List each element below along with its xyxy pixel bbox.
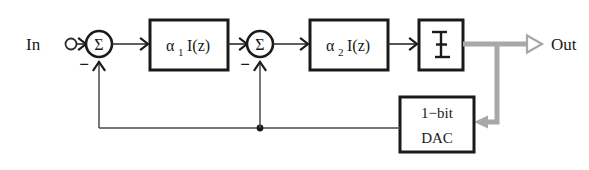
dac-label-line2: DAC <box>421 130 453 146</box>
first-integrator-gain: α <box>166 37 175 54</box>
arrowhead-dac-input <box>474 116 488 129</box>
first-integrator-transfer: I(z) <box>187 37 210 55</box>
input-terminal-icon <box>66 39 77 50</box>
first-integrator-subscript: 1 <box>178 46 184 58</box>
output-terminal-icon <box>527 36 542 53</box>
second-summer-minus-sign: − <box>240 55 250 74</box>
input-label: In <box>26 35 41 54</box>
dac-label-line1: 1−bit <box>421 105 454 121</box>
first-summer-sigma: Σ <box>94 36 103 53</box>
second-integrator-gain: α <box>326 37 335 54</box>
second-integrator-subscript: 2 <box>338 46 344 58</box>
wire-output-to-dac <box>487 44 497 122</box>
diagram-canvas: In Σ − α 1 I(z) Σ − α 2 I(z) <box>0 0 589 170</box>
output-label: Out <box>551 35 577 54</box>
first-summer-minus-sign: − <box>79 55 89 74</box>
block-diagram: In Σ − α 1 I(z) Σ − α 2 I(z) <box>0 0 589 170</box>
second-integrator-transfer: I(z) <box>347 37 370 55</box>
second-summer-sigma: Σ <box>255 36 264 53</box>
